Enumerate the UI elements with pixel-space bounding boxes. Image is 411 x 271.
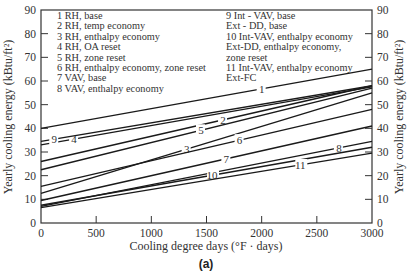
- y-tick-label-left: 50: [25, 99, 37, 111]
- y-tick-label-right: 40: [377, 122, 389, 134]
- series-line-9: [41, 86, 372, 142]
- legend-item-right: Ext-FC: [226, 72, 256, 83]
- y-axis-title-right: Yearly cooling energy (kBtu/ft²): [392, 40, 406, 194]
- y-tick-label-right: 70: [377, 51, 389, 63]
- legend-item-left: 3 RH, enthalpy economy: [57, 31, 161, 42]
- series-line-7: [41, 126, 372, 201]
- series-line-11: [41, 153, 372, 207]
- y-tick-label-left: 70: [25, 51, 37, 63]
- series-line-5: [41, 88, 372, 170]
- legend: 1 RH, base2 RH, temp economy3 RH, enthal…: [57, 10, 354, 94]
- y-tick-label-left: 40: [25, 122, 37, 134]
- x-tick-label: 1500: [195, 227, 218, 239]
- series-line-2: [41, 86, 372, 162]
- x-tick-label: 2000: [250, 227, 273, 239]
- legend-item-left: 4 RH, OA reset: [57, 41, 121, 52]
- y-tick-label-right: 20: [377, 170, 389, 182]
- legend-item-right: 11 Int-VAV, enthalpy economy: [226, 62, 353, 73]
- y-tick-label-right: 90: [377, 4, 389, 16]
- y-tick-label-left: 10: [25, 193, 37, 205]
- y-tick-label-left: 0: [30, 217, 36, 229]
- y-tick-label-right: 0: [377, 217, 383, 229]
- series-label-7: 7: [224, 153, 230, 165]
- series-label-1: 1: [259, 83, 265, 95]
- x-tick-label: 500: [88, 227, 106, 239]
- legend-item-right: 10 Int-VAV, enthalpy economy: [226, 31, 354, 42]
- legend-item-right: Ext - DD, base: [226, 20, 288, 31]
- figure-caption: (a): [199, 257, 214, 271]
- y-tick-label-right: 50: [377, 99, 389, 111]
- series-line-4: [41, 87, 372, 145]
- y-tick-label-right: 30: [377, 146, 389, 158]
- x-tick-label: 1000: [140, 227, 163, 239]
- legend-item-left: 5 RH, zone reset: [57, 52, 126, 63]
- legend-item-left: 6 RH, enthalpy economy, zone reset: [57, 62, 206, 73]
- y-tick-label-left: 30: [25, 146, 37, 158]
- y-tick-label-left: 90: [25, 4, 37, 16]
- y-tick-label-right: 60: [377, 75, 389, 87]
- legend-item-left: 2 RH, temp economy: [57, 20, 146, 31]
- series-label-6: 6: [237, 134, 243, 146]
- x-tick-label: 2500: [305, 227, 328, 239]
- legend-item-right: Ext-DD, enthalpy economy,: [226, 41, 341, 52]
- y-tick-label-right: 80: [377, 28, 389, 40]
- legend-item-right: zone reset: [226, 52, 268, 63]
- legend-item-left: 8 VAV, enthalpy economy: [57, 83, 165, 94]
- x-axis-title: Cooling degree days (°F · days): [129, 239, 282, 253]
- chart: 0500100015002000250030000010102020303040…: [0, 0, 411, 271]
- series-label-9: 9: [51, 133, 57, 145]
- x-tick-label: 0: [38, 227, 44, 239]
- legend-item-left: 1 RH, base: [57, 10, 103, 21]
- legend-item-left: 7 VAV, base: [57, 72, 107, 83]
- series-label-11: 11: [295, 159, 306, 171]
- y-tick-label-left: 60: [25, 75, 37, 87]
- y-axis-title-left: Yearly cooling energy (kBtu/ft²): [1, 40, 15, 194]
- series-label-5: 5: [198, 124, 204, 136]
- legend-item-right: 9 Int - VAV, base: [226, 10, 296, 21]
- y-tick-label-left: 20: [25, 170, 37, 182]
- y-tick-label-left: 80: [25, 28, 37, 40]
- y-tick-label-right: 10: [377, 193, 389, 205]
